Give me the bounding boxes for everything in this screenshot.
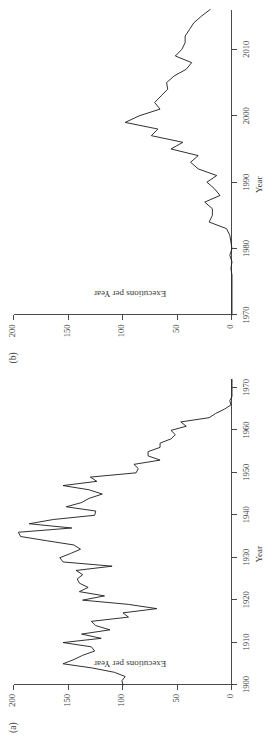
panel-b-y-tick: 50	[177, 316, 178, 321]
panel-b-y-tick: 150	[68, 316, 69, 321]
chart-panel-a: (a) Executions per Year Year 05010015020…	[0, 370, 266, 739]
panel-b-y-tick-label: 200	[7, 325, 17, 338]
panel-b-x-tick-label: 1980	[241, 240, 251, 257]
panel-b-x-tick-label: 1990	[241, 174, 251, 191]
figure: (a) Executions per Year Year 05010015020…	[0, 0, 266, 739]
panel-a-y-tick-label: 50	[171, 694, 181, 703]
panel-a-x-tick-label: 1950	[241, 464, 251, 481]
panel-b-series-line	[14, 10, 232, 316]
panel-b-x-tick: 1970	[232, 315, 237, 316]
panel-b-plot-area: 05010015020019701980199020002010	[14, 10, 232, 316]
panel-b-y-tick: 0	[231, 316, 232, 321]
panel-a-y-tick: 200	[13, 685, 14, 690]
panel-a-x-tick-label: 1930	[241, 549, 251, 566]
panel-a-x-tick: 1940	[232, 514, 237, 515]
panel-a-y-tick: 50	[177, 685, 178, 690]
panel-a-x-tick: 1920	[232, 599, 237, 600]
panel-a-x-tick-label: 1900	[241, 676, 251, 693]
panel-b-label: (b)	[8, 352, 18, 363]
panel-a-y-tick: 100	[122, 685, 123, 690]
panel-a-x-tick-label: 1960	[241, 421, 251, 438]
panel-b-y-tick-label: 100	[116, 325, 126, 338]
panel-b-y-tick-label: 150	[62, 325, 72, 338]
panel-a-y-tick: 150	[68, 685, 69, 690]
panel-a-y-tick-label: 200	[7, 694, 17, 707]
panel-b-x-axis-title: Year	[254, 0, 264, 370]
panel-a-x-tick: 1950	[232, 472, 237, 473]
panel-a-x-tick: 1960	[232, 429, 237, 430]
panel-b-x-tick: 2010	[232, 49, 237, 50]
panel-b-x-tick-label: 2010	[241, 41, 251, 58]
panel-a-y-tick: 0	[231, 685, 232, 690]
panel-a-label: (a)	[8, 722, 18, 733]
panel-a-y-tick-label: 0	[225, 694, 235, 698]
panel-b-y-tick: 100	[122, 316, 123, 321]
panel-a-x-tick: 1900	[232, 684, 237, 685]
panel-b-x-tick-label: 1970	[241, 307, 251, 324]
panel-a-x-tick-label: 1970	[241, 379, 251, 396]
panel-a-x-axis-title: Year	[254, 370, 264, 739]
chart-panel-b: (b) Executions per Year Year 05010015020…	[0, 0, 266, 370]
panel-a-plot-area: 0501001502001900191019201930194019501960…	[14, 380, 232, 686]
panel-a-x-tick-label: 1910	[241, 634, 251, 651]
panel-a-x-tick-label: 1940	[241, 506, 251, 523]
panel-b-x-tick: 2000	[232, 115, 237, 116]
panel-b-y-tick: 200	[13, 316, 14, 321]
panel-a-x-tick: 1930	[232, 557, 237, 558]
panel-b-x-tick: 1980	[232, 248, 237, 249]
panel-a-y-tick-label: 100	[116, 694, 126, 707]
panel-a-y-tick-label: 150	[62, 694, 72, 707]
panel-b-x-tick-label: 2000	[241, 107, 251, 124]
panel-a-series-line	[14, 380, 232, 686]
panel-a-x-tick-label: 1920	[241, 591, 251, 608]
panel-b-y-tick-label: 0	[225, 325, 235, 329]
panel-b-y-tick-label: 50	[171, 325, 181, 334]
panel-a-x-tick: 1970	[232, 387, 237, 388]
rotated-figure-stage: (a) Executions per Year Year 05010015020…	[0, 0, 266, 739]
panel-b-x-tick: 1990	[232, 182, 237, 183]
panel-a-x-tick: 1910	[232, 642, 237, 643]
